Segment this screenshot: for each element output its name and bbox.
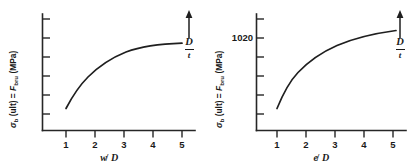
y-ticks-left	[43, 19, 51, 114]
x-tick-label-right-5: 5	[390, 139, 396, 150]
x-tick-label-right-2: 2	[303, 139, 308, 150]
ratio-annotation-left: D t	[182, 37, 196, 60]
chart-panel-right: 1020 1 2 3 4 5 e / D σb (ult) = Fbr	[206, 0, 412, 166]
ratio-denominator-right: t	[393, 51, 407, 60]
annotation-arrow-right	[397, 10, 404, 38]
y-axis-title-right: σb (ult) = Fbru (MPa)	[214, 51, 225, 128]
figure-pair: 1 2 3 4 5 w / D σb (ult) = Fbru (MPa) D	[0, 0, 412, 166]
ratio-numerator-left: D	[182, 37, 196, 48]
x-axis-title-right-slash: /	[316, 152, 320, 163]
data-curve-left	[66, 43, 182, 108]
chart-right-svg: 1020 1 2 3 4 5 e / D σb (ult) = Fbr	[206, 0, 412, 166]
chart-panel-left: 1 2 3 4 5 w / D σb (ult) = Fbru (MPa) D	[0, 0, 206, 166]
x-ticks-left	[66, 131, 182, 138]
x-tick-label-right-4: 4	[361, 139, 367, 150]
x-axis-title-right-denominator: D	[321, 152, 329, 163]
x-tick-label-left-4: 4	[150, 139, 156, 150]
x-axis-title-left: w / D	[100, 152, 118, 163]
x-axis-title-left-slash: /	[105, 152, 109, 163]
x-tick-label-right-3: 3	[332, 139, 337, 150]
chart-left-svg: 1 2 3 4 5 w / D σb (ult) = Fbru (MPa)	[0, 0, 206, 166]
y-ticks-right	[257, 19, 265, 114]
data-curve-right	[277, 31, 396, 109]
x-tick-label-right-1: 1	[274, 139, 280, 150]
ratio-annotation-right: D t	[393, 37, 407, 60]
ratio-numerator-right: D	[393, 37, 407, 48]
x-axis-title-left-denominator: D	[110, 152, 118, 163]
ratio-denominator-left: t	[182, 51, 196, 60]
y-axis-title-left: σb (ult) = Fbru (MPa)	[8, 51, 19, 128]
y-tick-label-right-1020: 1020	[232, 32, 253, 43]
x-ticks-right	[277, 131, 393, 138]
annotation-arrow-left	[186, 10, 193, 38]
x-tick-label-left-5: 5	[179, 139, 185, 150]
x-tick-label-left-3: 3	[121, 139, 126, 150]
x-tick-label-left-2: 2	[92, 139, 97, 150]
x-axis-title-right: e / D	[314, 152, 330, 163]
x-tick-label-left-1: 1	[63, 139, 69, 150]
